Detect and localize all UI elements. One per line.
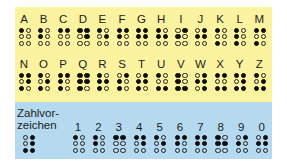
dot-flat	[134, 141, 139, 146]
dot-flat	[45, 41, 50, 46]
dot-raised	[38, 73, 43, 78]
dot-raised	[143, 79, 148, 84]
cell-label: W	[191, 58, 209, 70]
dot-flat	[261, 73, 266, 78]
dot-raised	[97, 28, 102, 33]
cell-label: T	[133, 58, 151, 70]
braille-dots	[155, 72, 169, 92]
dot-flat	[161, 148, 166, 153]
dot-raised	[215, 141, 220, 146]
dot-raised	[26, 73, 31, 78]
dot-flat	[117, 73, 122, 78]
dot-flat	[124, 34, 129, 39]
dot-raised	[38, 86, 43, 91]
dot-flat	[195, 148, 200, 153]
dot-flat	[175, 28, 180, 33]
braille-dots	[194, 72, 208, 92]
dot-raised	[263, 141, 268, 146]
dot-raised	[241, 73, 246, 78]
dot-flat	[104, 86, 109, 91]
cell-label: Z	[250, 58, 268, 70]
dot-raised	[175, 135, 180, 140]
dot-flat	[80, 135, 85, 140]
dot-flat	[113, 141, 118, 146]
dot-raised	[117, 86, 122, 91]
dot-raised	[182, 135, 187, 140]
dot-raised	[234, 34, 239, 39]
dot-flat	[222, 34, 227, 39]
dot-raised	[215, 28, 220, 33]
dot-raised	[202, 28, 207, 33]
dot-flat	[26, 28, 31, 33]
braille-dots	[57, 27, 71, 47]
dot-raised	[163, 34, 168, 39]
dot-raised	[19, 73, 24, 78]
dot-flat	[45, 34, 50, 39]
dot-raised	[156, 86, 161, 91]
dot-raised	[30, 141, 35, 146]
dot-flat	[254, 34, 259, 39]
dot-raised	[97, 86, 102, 91]
braille-chart: ABCDEFGHIJKLM NOPQRSTUVWXYZ Zahlvor- zei…	[15, 7, 272, 159]
dot-flat	[163, 79, 168, 84]
braille-dots	[174, 134, 188, 154]
braille-dots	[235, 134, 249, 154]
dot-flat	[26, 34, 31, 39]
dot-flat	[243, 148, 248, 153]
dot-raised	[222, 86, 227, 91]
cell-label: P	[54, 58, 72, 70]
braille-dots	[175, 72, 189, 92]
braille-dots	[234, 72, 248, 92]
dot-raised	[124, 73, 129, 78]
braille-dots	[136, 72, 150, 92]
braille-dots	[175, 27, 189, 47]
dot-flat	[222, 79, 227, 84]
dot-flat	[84, 86, 89, 91]
dot-flat	[77, 41, 82, 46]
dot-raised	[30, 148, 35, 153]
dot-raised	[26, 79, 31, 84]
dot-raised	[156, 73, 161, 78]
dot-raised	[65, 73, 70, 78]
dot-flat	[175, 41, 180, 46]
dot-flat	[134, 148, 139, 153]
braille-dots	[215, 134, 229, 154]
dot-raised	[222, 141, 227, 146]
dot-flat	[141, 148, 146, 153]
dot-flat	[100, 135, 105, 140]
dot-flat	[182, 73, 187, 78]
braille-dots	[194, 134, 208, 154]
dot-raised	[120, 135, 125, 140]
dot-raised	[175, 73, 180, 78]
cell-label: S	[113, 58, 131, 70]
dot-raised	[104, 79, 109, 84]
dot-flat	[73, 141, 78, 146]
dot-flat	[84, 41, 89, 46]
cell-label: 5	[151, 121, 169, 133]
dot-raised	[104, 34, 109, 39]
dot-raised	[143, 73, 148, 78]
dot-flat	[136, 73, 141, 78]
dot-raised	[84, 73, 89, 78]
dot-flat	[143, 41, 148, 46]
dot-flat	[154, 141, 159, 146]
cell-label: G	[133, 13, 151, 25]
dot-flat	[195, 28, 200, 33]
cell-label: N	[15, 58, 33, 70]
cell-label: V	[172, 58, 190, 70]
dot-raised	[143, 28, 148, 33]
dot-flat	[241, 28, 246, 33]
cell-label: D	[74, 13, 92, 25]
dot-raised	[77, 86, 82, 91]
braille-dots	[57, 72, 71, 92]
braille-dots	[96, 27, 110, 47]
dot-flat	[236, 135, 241, 140]
cell-label: O	[35, 58, 53, 70]
cell-label: 1	[69, 121, 87, 133]
dot-raised	[84, 79, 89, 84]
dot-raised	[261, 28, 266, 33]
dot-raised	[175, 79, 180, 84]
braille-dots	[136, 27, 150, 47]
dot-raised	[236, 141, 241, 146]
dot-raised	[154, 135, 159, 140]
